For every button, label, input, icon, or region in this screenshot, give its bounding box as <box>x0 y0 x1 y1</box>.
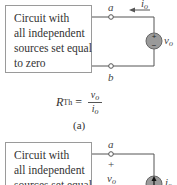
terminal-a-label-b: a <box>108 138 114 150</box>
source-voltage-label: vo <box>164 34 173 48</box>
box-line: sources set equal <box>14 178 92 185</box>
current-source-label-b: io <box>165 176 172 185</box>
current-label-a: io <box>141 0 148 11</box>
terminal-a-b-icon <box>109 152 114 157</box>
plus-label-b: + <box>108 158 114 170</box>
terminal-b-icon <box>109 64 114 69</box>
voltage-label-b: vo <box>107 172 116 185</box>
box-line: Circuit with <box>14 148 92 163</box>
terminal-a-label: a <box>108 1 114 13</box>
svg-text:+: + <box>152 32 157 41</box>
current-arrow-icon <box>129 8 135 13</box>
rth-formula: RTh = vo io <box>56 89 102 116</box>
caption-a: (a) <box>73 119 85 131</box>
circuit-box-b: Circuit with all independent sources set… <box>5 142 92 185</box>
box-line: all independent <box>14 163 92 178</box>
circuit-box-b-text: Circuit with all independent sources set… <box>14 148 92 185</box>
terminal-b-label: b <box>108 71 114 83</box>
terminal-a-icon <box>109 15 114 20</box>
svg-text:−: − <box>152 41 157 50</box>
